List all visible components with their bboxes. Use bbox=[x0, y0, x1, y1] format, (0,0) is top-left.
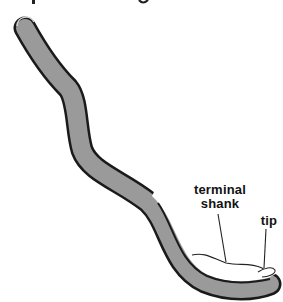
instrument-drawing bbox=[0, 0, 283, 302]
terminal-shank-label-line2: shank bbox=[185, 197, 255, 211]
terminal-shank-label: terminal shank bbox=[185, 183, 255, 211]
terminal-shank-label-line1: terminal bbox=[185, 183, 255, 197]
tip-label: tip bbox=[257, 214, 281, 228]
instrument-diagram: terminal shank tip bbox=[0, 0, 283, 302]
clipped-title-fragments bbox=[32, 0, 148, 4]
